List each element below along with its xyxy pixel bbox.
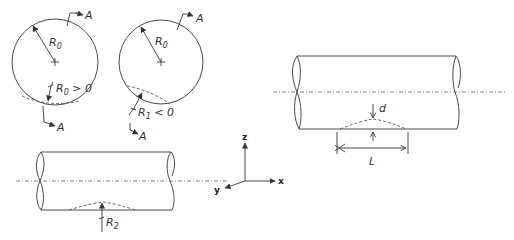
cylinder-longitudinal-dent: R2 — [16, 152, 228, 232]
y-axis — [225, 181, 245, 188]
radius-label: R0 — [155, 35, 168, 50]
depth-label: d — [379, 102, 387, 115]
x-axis-label: x — [278, 176, 284, 186]
dent-profile — [127, 86, 170, 104]
section-label-bottom: A — [138, 130, 147, 143]
break-line-left — [292, 56, 301, 129]
circle-negative-curvature: R0 R1 < 0 A A — [119, 12, 204, 143]
section-marker-bottom — [43, 106, 50, 124]
y-axis-label: y — [214, 185, 220, 195]
curvature-label: R0 > 0 — [56, 82, 92, 97]
coordinate-axes: z x y — [214, 132, 284, 195]
z-axis-label: z — [242, 132, 247, 142]
curvature-label: R2 — [106, 216, 119, 231]
section-marker-top — [67, 13, 78, 26]
curvature-arrow — [48, 86, 51, 101]
end-ellipse-right — [171, 152, 175, 176]
end-ellipse-right — [456, 56, 460, 88]
radius-label: R0 — [49, 36, 62, 51]
length-label: L — [369, 155, 375, 168]
section-label-top: A — [84, 9, 93, 22]
dent-geometry-diagram: R0 R0 > 0 A A R0 R1 < 0 A A — [0, 0, 514, 240]
section-marker-top — [177, 14, 189, 30]
section-label-top: A — [195, 12, 204, 25]
curvature-label: R1 < 0 — [138, 106, 174, 121]
cylinder-dent-dimensions: d L — [273, 56, 505, 168]
section-marker-bottom — [130, 123, 135, 132]
section-label-bottom: A — [56, 121, 65, 134]
dent-profile — [340, 119, 406, 129]
circle-positive-curvature: R0 R0 > 0 A A — [12, 9, 98, 134]
